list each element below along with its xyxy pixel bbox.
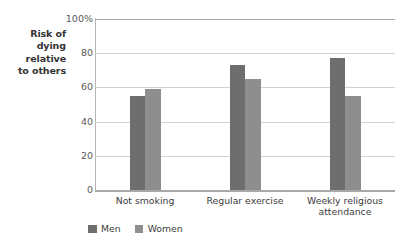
y-tick-label-100: 100% (47, 14, 93, 24)
bar-women-0 (145, 89, 161, 190)
plot-area (95, 19, 395, 190)
y-tick-label-0: 0 (47, 185, 93, 195)
bar-chart: Risk of dying relative to others 100%806… (0, 0, 405, 243)
y-tick-label-60: 60 (47, 82, 93, 92)
x-category-label-2: Weekly religious attendance (293, 195, 397, 218)
legend-item-men: Men (88, 224, 121, 234)
y-tick-label-20: 20 (47, 151, 93, 161)
y-tick-label-80: 80 (47, 48, 93, 58)
y-tick-label-40: 40 (47, 117, 93, 127)
legend-swatch-men (88, 225, 97, 234)
x-category-label-0: Not smoking (93, 195, 197, 206)
bar-men-2 (330, 58, 346, 190)
x-category-label-1: Regular exercise (193, 195, 297, 206)
legend-swatch-women (135, 225, 144, 234)
gridline-100 (95, 19, 395, 20)
bar-men-1 (230, 65, 246, 190)
gridline-80 (95, 53, 395, 54)
bar-women-2 (345, 96, 361, 190)
gridline-0 (95, 190, 395, 192)
bar-women-1 (245, 79, 261, 190)
legend-label-women: Women (148, 224, 183, 234)
bar-men-0 (130, 96, 146, 190)
legend-item-women: Women (135, 224, 183, 234)
legend: MenWomen (88, 224, 183, 234)
legend-label-men: Men (101, 224, 121, 234)
